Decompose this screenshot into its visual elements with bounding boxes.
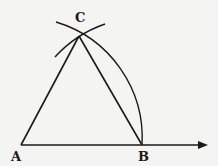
- arc-centered-a: [56, 22, 142, 145]
- label-a: A: [10, 149, 22, 164]
- label-b: B: [138, 149, 149, 164]
- label-c: C: [75, 10, 85, 25]
- segment-ac: [21, 36, 79, 145]
- arrowhead-icon: [198, 141, 208, 149]
- arc-centered-b: [55, 24, 105, 57]
- construction-diagram: C A B: [0, 0, 218, 166]
